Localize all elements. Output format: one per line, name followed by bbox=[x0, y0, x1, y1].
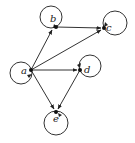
node-d bbox=[78, 68, 82, 72]
edge-a-e bbox=[31, 70, 54, 109]
graph-canvas: a b c d e bbox=[0, 0, 135, 143]
label-c: c bbox=[106, 22, 112, 33]
node-a bbox=[29, 68, 33, 72]
edge-b-c bbox=[56, 27, 101, 28]
label-b: b bbox=[50, 13, 56, 24]
label-a: a bbox=[21, 65, 27, 76]
edge-d-e bbox=[58, 70, 80, 109]
label-d: d bbox=[84, 64, 90, 75]
node-b bbox=[54, 25, 58, 29]
label-e: e bbox=[53, 113, 59, 124]
